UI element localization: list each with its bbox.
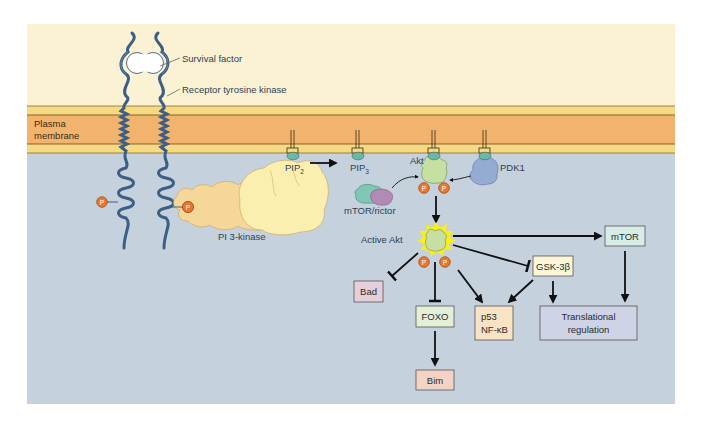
phosphate-icon: P	[419, 183, 430, 194]
bim-node: Bim	[416, 370, 454, 390]
svg-text:P: P	[100, 199, 104, 206]
pip3-headgroup	[352, 152, 364, 160]
pi3k-light-lobe	[239, 160, 328, 235]
translational-regulation-node: Translational regulation	[540, 306, 637, 340]
svg-text:P: P	[422, 185, 426, 192]
membrane-label-line1: Plasma	[34, 118, 66, 129]
active-akt-label: Active Akt	[361, 234, 403, 245]
active-akt-protein	[426, 229, 447, 251]
survival-factor-ligand	[127, 53, 164, 74]
nfkb-label: NF-κB	[481, 324, 508, 335]
svg-text:P: P	[442, 185, 446, 192]
survival-factor-label: Survival factor	[182, 53, 242, 64]
foxo-node: FOXO	[416, 306, 454, 327]
akt-label: Akt	[410, 155, 424, 166]
akt-pip3-headgroup	[428, 152, 440, 160]
bad-node: Bad	[354, 281, 383, 302]
membrane-label-line2: membrane	[34, 130, 79, 141]
mtor-rictor-label: mTOR/rictor	[344, 205, 396, 216]
p53-label: p53	[481, 311, 497, 322]
rictor-protein	[371, 189, 393, 205]
bad-label: Bad	[360, 286, 377, 297]
translational-label-line2: regulation	[568, 324, 610, 335]
mtor-node: mTOR	[605, 226, 645, 246]
svg-text:P: P	[186, 204, 190, 211]
svg-text:P: P	[422, 259, 426, 266]
gsk3b-label: GSK-3β	[536, 261, 571, 272]
pi3k-label: PI 3-kinase	[218, 231, 266, 242]
phosphate-icon: P	[440, 257, 451, 268]
phosphate-icon: P	[97, 197, 108, 208]
receptor-label: Receptor tyrosine kinase	[182, 84, 287, 95]
bim-label: Bim	[427, 375, 443, 386]
akt-pathway-diagram: Plasma membrane Survival factor Receptor…	[0, 0, 701, 427]
pdk1-label: PDK1	[500, 162, 525, 173]
foxo-label: FOXO	[422, 311, 449, 322]
p53-nfkb-node: p53 NF-κB	[475, 306, 513, 340]
cytoplasm-region	[27, 153, 675, 404]
gsk3b-node: GSK-3β	[533, 256, 573, 276]
phosphate-icon: P	[439, 183, 450, 194]
pdk1-pip3-headgroup	[479, 152, 491, 160]
akt-protein	[421, 157, 447, 184]
phosphate-icon: P	[182, 201, 193, 212]
svg-text:P: P	[443, 259, 447, 266]
phosphate-icon: P	[419, 257, 430, 268]
translational-label-line1: Translational	[561, 311, 615, 322]
mtor-label: mTOR	[611, 231, 639, 242]
pip2-headgroup	[287, 152, 299, 160]
